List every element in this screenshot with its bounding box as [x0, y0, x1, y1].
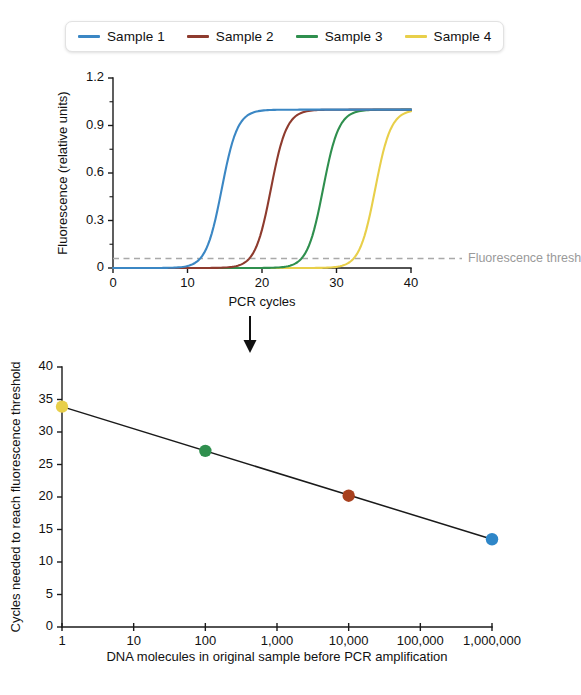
x-axis-title: DNA molecules in original sample before … [106, 649, 447, 664]
data-point-sample-2 [342, 490, 354, 502]
curve-sample-3 [113, 110, 411, 268]
y-axis-title: Fluorescence (relative units) [55, 91, 70, 254]
legend-label-sample-3: Sample 3 [325, 29, 383, 44]
y-tick-label-2: 0.6 [86, 164, 104, 179]
y-tick-label-0: 0 [97, 259, 104, 274]
x-tick-label-5: 100,000 [397, 633, 444, 648]
x-tick-label-4: 10,000 [329, 633, 369, 648]
data-point-sample-1 [486, 533, 498, 545]
legend-label-sample-4: Sample 4 [434, 29, 492, 44]
y-tick-label-4: 20 [39, 488, 53, 503]
chart-legend: Sample 1 Sample 2 Sample 3 Sample 4 [65, 21, 504, 52]
x-tick-label-1: 10 [180, 275, 194, 290]
y-tick-label-8: 40 [39, 358, 53, 373]
standard-curve-fit [62, 407, 492, 540]
x-tick-label-2: 100 [194, 633, 216, 648]
legend-swatch-sample-1 [78, 35, 100, 38]
legend-item-sample-2: Sample 2 [187, 29, 274, 44]
y-tick-label-6: 30 [39, 423, 53, 438]
y-tick-label-2: 10 [39, 553, 53, 568]
y-tick-label-3: 15 [39, 521, 53, 536]
standard-curve-chart: 05101520253035401101001,00010,000100,000… [0, 355, 581, 695]
curve-sample-1 [113, 110, 411, 268]
data-point-sample-3 [199, 445, 211, 457]
fluorescence-threshold-label: Fluorescence threshold [468, 251, 581, 265]
legend-swatch-sample-2 [187, 35, 209, 38]
x-tick-label-6: 1,000,000 [463, 633, 521, 648]
legend-item-sample-1: Sample 1 [78, 29, 165, 44]
x-tick-label-1: 10 [126, 633, 140, 648]
x-axis-title: PCR cycles [228, 294, 296, 309]
y-tick-label-1: 5 [46, 586, 53, 601]
x-tick-label-0: 0 [109, 275, 116, 290]
curve-sample-4 [113, 111, 411, 268]
y-tick-label-0: 0 [46, 618, 53, 633]
x-tick-label-3: 1,000 [261, 633, 294, 648]
legend-label-sample-2: Sample 2 [216, 29, 274, 44]
legend-label-sample-1: Sample 1 [107, 29, 165, 44]
y-tick-label-7: 35 [39, 391, 53, 406]
legend-item-sample-3: Sample 3 [296, 29, 383, 44]
y-tick-label-1: 0.3 [86, 212, 104, 227]
x-tick-label-0: 1 [58, 633, 65, 648]
qpcr-figure: Sample 1 Sample 2 Sample 3 Sample 4 00.3… [0, 0, 581, 695]
data-point-sample-4 [56, 400, 68, 412]
curve-sample-2 [113, 110, 411, 268]
y-tick-label-5: 25 [39, 456, 53, 471]
down-arrow-icon [237, 316, 263, 356]
legend-item-sample-4: Sample 4 [405, 29, 492, 44]
x-tick-label-2: 20 [255, 275, 269, 290]
amplification-curve-chart: 00.30.60.91.2010203040PCR cyclesFluoresc… [0, 60, 581, 320]
y-tick-label-4: 1.2 [86, 69, 104, 84]
legend-swatch-sample-3 [296, 35, 318, 38]
y-tick-label-3: 0.9 [86, 117, 104, 132]
x-tick-label-4: 40 [404, 275, 418, 290]
x-tick-label-3: 30 [329, 275, 343, 290]
y-axis-title: Cycles needed to reach fluorescence thre… [8, 362, 23, 633]
legend-swatch-sample-4 [405, 35, 427, 38]
